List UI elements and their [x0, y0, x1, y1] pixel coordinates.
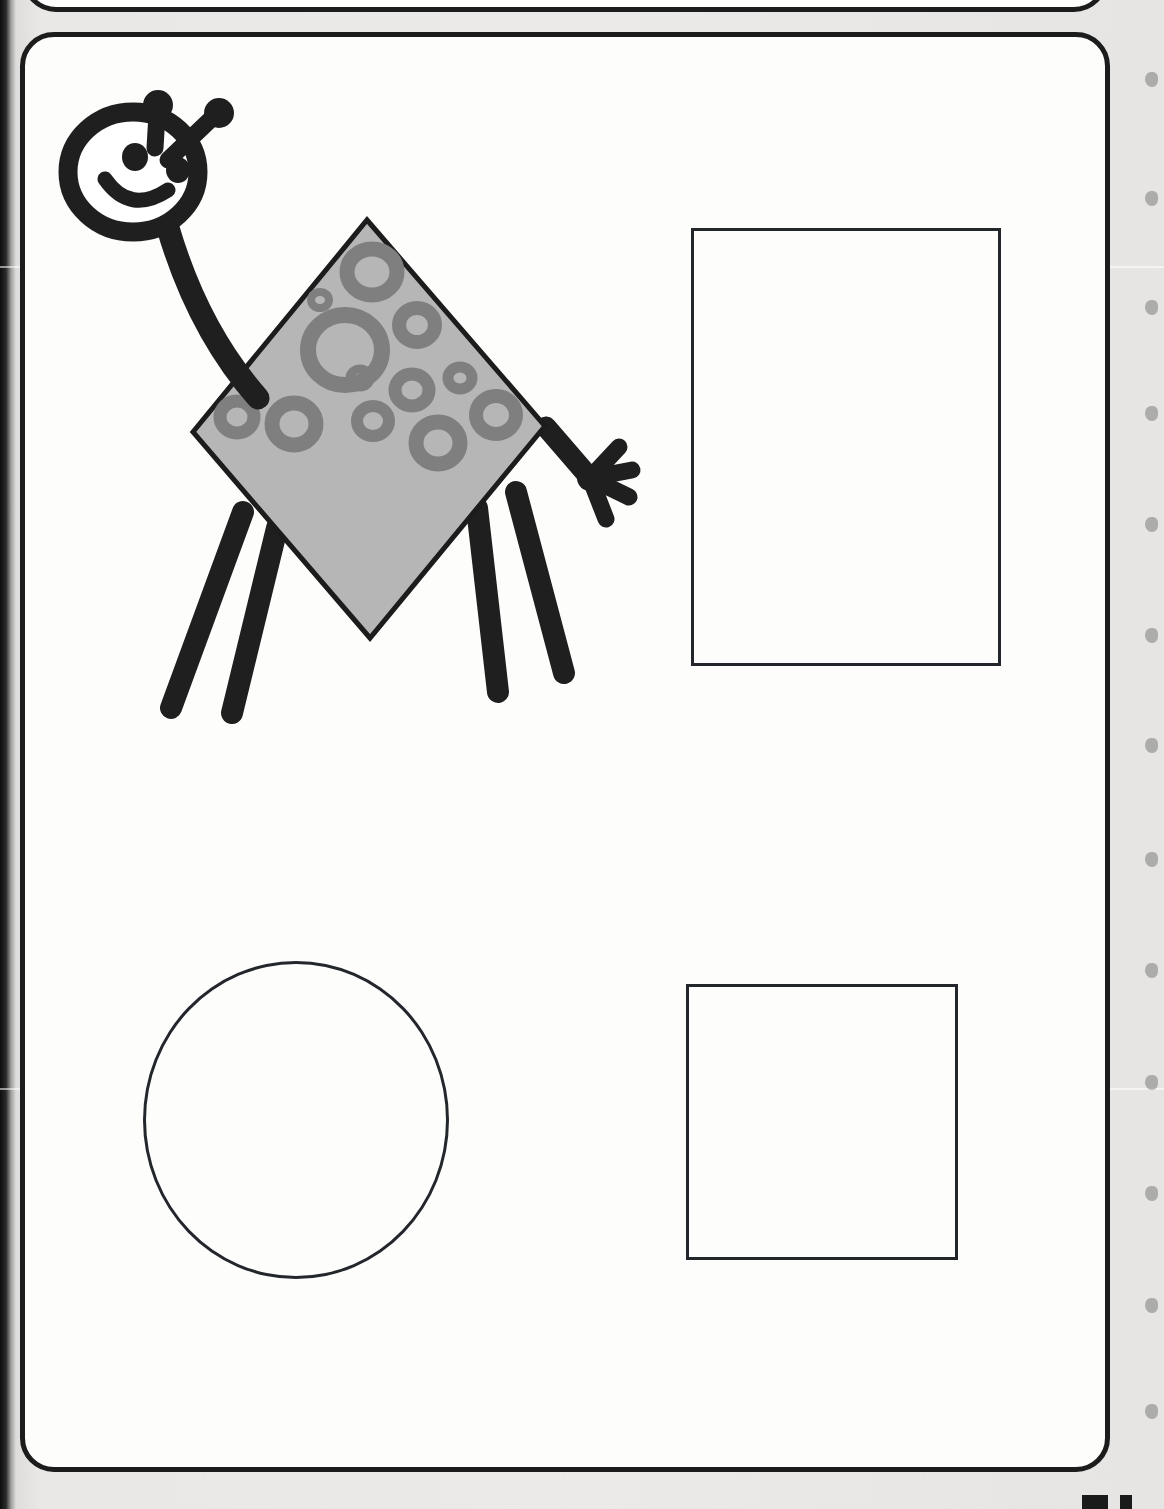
binding-mark: [1145, 1298, 1158, 1313]
head-antennae: [143, 90, 234, 160]
binding-mark: [1145, 1186, 1158, 1201]
leg-left-inner: [232, 528, 277, 713]
binding-mark: [1145, 72, 1158, 87]
binding-mark: [1145, 191, 1158, 206]
binding-mark: [1145, 628, 1158, 643]
eye-right: [166, 157, 190, 183]
leg-right-inner: [477, 508, 498, 692]
page-number-mark: [1082, 1495, 1108, 1509]
binding-mark: [1145, 517, 1158, 532]
antenna-left-tip: [143, 90, 173, 120]
creature-head: [68, 90, 234, 232]
creature-neck: [168, 228, 258, 398]
leg-right-outer: [516, 492, 564, 673]
binding-mark: [1145, 852, 1158, 867]
binding-mark: [1145, 1404, 1158, 1419]
neck: [168, 228, 258, 398]
binding-mark: [1145, 406, 1158, 421]
binding-mark: [1145, 738, 1158, 753]
hand-palm: [577, 465, 603, 491]
binding-mark: [1145, 300, 1158, 315]
page-number-mark: [1120, 1495, 1132, 1509]
antenna-right-tip: [204, 98, 234, 128]
eye-left: [122, 143, 148, 171]
workbook-page: [0, 0, 1164, 1509]
binding-mark: [1145, 963, 1158, 978]
diamond-body-alien-illustration: [0, 0, 1164, 1509]
binding-mark: [1145, 1075, 1158, 1090]
